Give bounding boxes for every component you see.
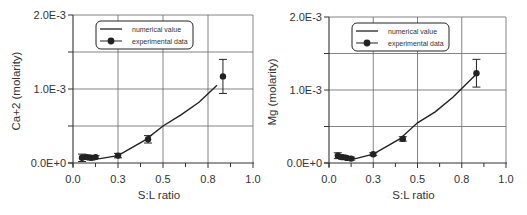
- experimental-data-point: [472, 59, 480, 87]
- x-tick-label: 0.0: [65, 173, 80, 185]
- y-tick-label: 0.0E+0: [287, 157, 322, 169]
- data-marker: [348, 155, 354, 161]
- y-axis-label: Mg (molarity): [266, 58, 278, 125]
- x-tick-label: 0.3: [110, 173, 125, 185]
- chart-magnesium: 0.00.30.50.81.00.0E+01.0E-32.0E-3S:L rat…: [266, 11, 514, 201]
- chart-calcium: 0.00.30.50.81.00.0E+01.0E-32.0E-3S:L rat…: [10, 9, 261, 201]
- experimental-data-point: [114, 152, 122, 158]
- x-axis-label: S:L ratio: [392, 189, 434, 201]
- legend-marker-swatch: [364, 40, 371, 47]
- figure: 0.00.30.50.81.00.0E+01.0E-32.0E-3S:L rat…: [0, 0, 527, 215]
- x-tick-label: 0.5: [155, 173, 170, 185]
- data-marker: [370, 151, 376, 157]
- legend: numerical valueexperimental data: [352, 23, 449, 51]
- data-marker: [220, 73, 226, 79]
- legend-label-experimental: experimental data: [132, 38, 188, 46]
- x-tick-label: 1.0: [245, 173, 260, 185]
- x-tick-label: 0.3: [366, 173, 381, 185]
- legend-label-numerical: numerical value: [388, 28, 437, 35]
- legend: numerical valueexperimental data: [96, 21, 193, 49]
- y-tick-label: 1.0E-3: [34, 83, 66, 95]
- data-marker: [92, 154, 98, 160]
- legend-label-numerical: numerical value: [132, 26, 181, 33]
- y-tick-label: 2.0E-3: [290, 11, 322, 23]
- x-tick-label: 0.8: [454, 173, 469, 185]
- data-marker: [473, 70, 479, 76]
- chart-canvas: 0.00.30.50.81.00.0E+01.0E-32.0E-3S:L rat…: [0, 0, 527, 215]
- experimental-data-point: [219, 59, 227, 93]
- y-tick-label: 1.0E-3: [290, 84, 322, 96]
- x-tick-label: 0.8: [200, 173, 215, 185]
- x-tick-label: 1.0: [498, 173, 513, 185]
- x-tick-label: 0.5: [410, 173, 425, 185]
- y-tick-label: 2.0E-3: [34, 9, 66, 21]
- experimental-data-point: [144, 136, 152, 143]
- data-marker: [145, 136, 151, 142]
- legend-label-experimental: experimental data: [388, 40, 444, 48]
- x-axis-label: S:L ratio: [138, 189, 180, 201]
- data-marker: [400, 136, 406, 142]
- experimental-data-point: [399, 136, 407, 142]
- numerical-value-line: [338, 74, 477, 159]
- legend-marker-swatch: [108, 38, 115, 45]
- data-marker: [115, 152, 121, 158]
- y-axis-label: Ca+2 (molarity): [10, 51, 22, 130]
- numerical-value-line: [82, 85, 217, 159]
- y-tick-label: 0.0E+0: [31, 157, 66, 169]
- x-tick-label: 0.0: [321, 173, 336, 185]
